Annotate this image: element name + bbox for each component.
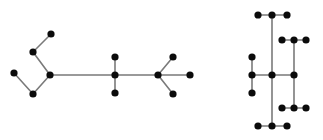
graph-node xyxy=(302,104,309,111)
graph-node xyxy=(283,122,290,129)
graph-node xyxy=(111,71,118,78)
graph-node xyxy=(302,36,309,43)
graph-node xyxy=(283,11,290,18)
graph-node xyxy=(248,89,255,96)
graph-node xyxy=(169,90,176,97)
graph-node xyxy=(268,71,275,78)
graph-node xyxy=(254,11,261,18)
graph-node xyxy=(10,69,17,76)
graph-node xyxy=(290,36,297,43)
graph-node xyxy=(46,71,53,78)
graph-node xyxy=(29,90,36,97)
graph-svg xyxy=(0,0,323,140)
graph-node xyxy=(111,53,118,60)
graph-node xyxy=(248,53,255,60)
graph-node xyxy=(29,48,36,55)
graph-node xyxy=(254,122,261,129)
graph-node xyxy=(154,71,161,78)
figure-canvas xyxy=(0,0,323,140)
graph-node xyxy=(278,36,285,43)
graph-node xyxy=(169,53,176,60)
graph-node xyxy=(47,30,54,37)
graph-node xyxy=(278,104,285,111)
graph-node xyxy=(268,122,275,129)
graph-node xyxy=(290,71,297,78)
graph-node xyxy=(248,71,255,78)
graph-node xyxy=(111,89,118,96)
graph-node xyxy=(186,71,193,78)
graph-node xyxy=(290,104,297,111)
graph-node xyxy=(268,11,275,18)
